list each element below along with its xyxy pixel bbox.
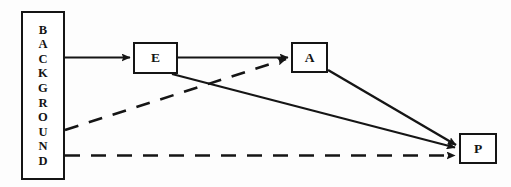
node-background-letter: U	[38, 125, 48, 140]
node-background-letter: C	[38, 52, 48, 67]
node-background-letter: G	[38, 81, 48, 96]
node-e-label: E	[151, 51, 160, 65]
node-background-letter: B	[38, 23, 48, 38]
node-p[interactable]: P	[459, 133, 497, 164]
edge-e-to-p	[172, 74, 455, 148]
node-p-label: P	[474, 142, 482, 156]
node-background-letter: N	[38, 139, 48, 154]
node-e[interactable]: E	[133, 42, 178, 74]
edge-a-to-p	[328, 70, 456, 145]
node-background[interactable]: B A C K G R O U N D	[21, 11, 65, 180]
node-background-letter: K	[38, 66, 48, 81]
node-background-letter: D	[38, 154, 48, 169]
node-a-label: A	[305, 51, 315, 65]
diagram-edges-layer	[0, 0, 511, 187]
node-a[interactable]: A	[291, 42, 328, 73]
node-background-letter: O	[38, 110, 48, 125]
node-background-letter: R	[38, 96, 48, 111]
node-background-letter: A	[38, 37, 48, 52]
diagram-canvas: B A C K G R O U N D E A P	[0, 0, 511, 187]
node-background-label: B A C K G R O U N D	[38, 23, 48, 169]
